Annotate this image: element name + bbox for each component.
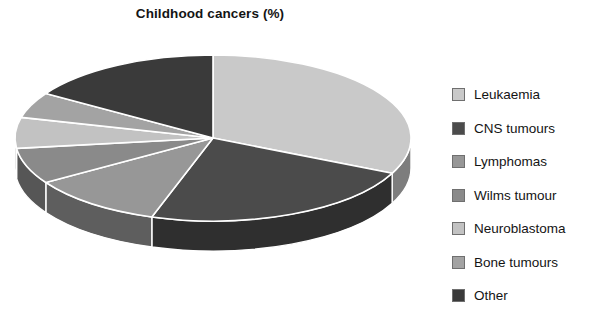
legend-label-cns-tumours: CNS tumours: [474, 122, 555, 136]
legend-swatch-lymphomas: [452, 155, 465, 168]
legend-item-wilms-tumour[interactable]: Wilms tumour: [452, 179, 600, 213]
legend-label-other: Other: [474, 289, 508, 303]
legend-swatch-neuroblastoma: [452, 222, 465, 235]
pie-top-faces: [15, 55, 411, 221]
pie-chart: [0, 28, 420, 308]
bottom-caption: [0, 305, 600, 314]
legend-item-leukaemia[interactable]: Leukaemia: [452, 78, 600, 112]
legend-swatch-other: [452, 289, 465, 302]
legend-item-neuroblastoma[interactable]: Neuroblastoma: [452, 212, 600, 246]
legend-item-cns-tumours[interactable]: CNS tumours: [452, 112, 600, 146]
legend: Leukaemia CNS tumours Lymphomas Wilms tu…: [452, 78, 600, 313]
legend-label-lymphomas: Lymphomas: [474, 155, 547, 169]
pie-chart-svg: [0, 28, 420, 308]
legend-swatch-cns-tumours: [452, 122, 465, 135]
legend-label-neuroblastoma: Neuroblastoma: [474, 222, 566, 236]
legend-item-bone-tumours[interactable]: Bone tumours: [452, 246, 600, 280]
legend-label-wilms-tumour: Wilms tumour: [474, 189, 557, 203]
legend-swatch-bone-tumours: [452, 256, 465, 269]
legend-item-lymphomas[interactable]: Lymphomas: [452, 145, 600, 179]
legend-label-leukaemia: Leukaemia: [474, 88, 540, 102]
legend-swatch-leukaemia: [452, 88, 465, 101]
page-title: Childhood cancers (%): [0, 6, 420, 21]
legend-swatch-wilms-tumour: [452, 189, 465, 202]
legend-label-bone-tumours: Bone tumours: [474, 256, 558, 270]
